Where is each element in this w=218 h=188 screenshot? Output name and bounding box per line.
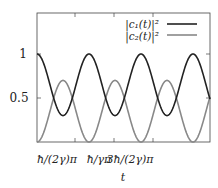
xtick-label-1: ħ/(2γ)π xyxy=(37,153,78,166)
xtick-label-3: 3ħ/(2γ)π xyxy=(106,153,154,166)
legend-label-c2: |c₂(t)|² xyxy=(125,30,159,44)
x-axis-label: t xyxy=(121,171,126,184)
y-ticks xyxy=(37,54,210,98)
series-c2-line xyxy=(37,80,210,142)
series-c1-line xyxy=(37,54,210,116)
ytick-label-0.5: 0.5 xyxy=(9,91,28,105)
plot-frame xyxy=(37,13,210,142)
chart: 1 0.5 ħ/(2γ)π ħ/γπ 3ħ/(2γ)π t |c₁(t)|² |… xyxy=(0,0,218,188)
ytick-label-1: 1 xyxy=(19,47,27,61)
